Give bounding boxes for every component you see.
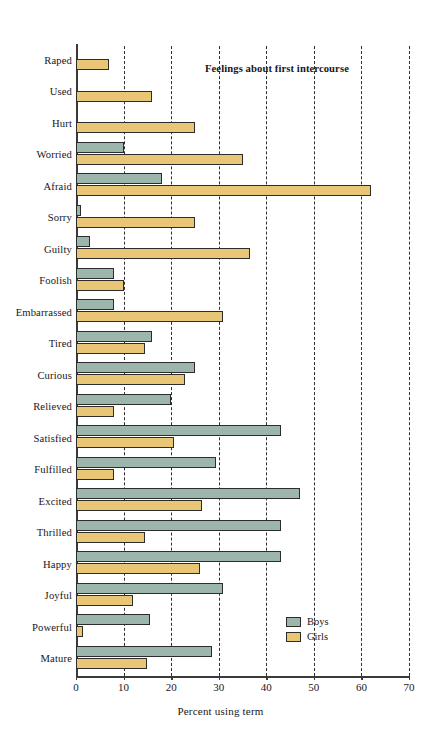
bar-boys-worried — [76, 142, 124, 153]
category-label-excited: Excited — [0, 496, 72, 507]
category-label-sorry: Sorry — [0, 212, 72, 223]
bar-boys-foolish — [76, 268, 114, 279]
x-axis-title: Percent using term — [0, 705, 441, 717]
bar-chart: Feelings about first intercourse Percent… — [0, 0, 441, 753]
x-tick-40 — [266, 676, 267, 680]
bar-girls-foolish — [76, 280, 124, 291]
bar-girls-sorry — [76, 217, 195, 228]
x-tick-70 — [409, 676, 410, 680]
bar-boys-afraid — [76, 173, 162, 184]
x-tick-label-30: 30 — [213, 681, 224, 693]
chart-row: Happy — [0, 550, 441, 577]
bar-boys-mature — [76, 646, 212, 657]
chart-row: Worried — [0, 141, 441, 168]
x-tick-label-60: 60 — [356, 681, 367, 693]
bar-girls-afraid — [76, 185, 371, 196]
category-label-thrilled: Thrilled — [0, 527, 72, 538]
bar-boys-excited — [76, 488, 300, 499]
chart-row: Powerful — [0, 613, 441, 640]
x-tick-label-0: 0 — [73, 681, 79, 693]
chart-row: Hurt — [0, 109, 441, 136]
x-tick-label-40: 40 — [261, 681, 272, 693]
bar-girls-powerful — [76, 626, 83, 637]
bar-boys-fulfilled — [76, 457, 216, 468]
category-label-worried: Worried — [0, 149, 72, 160]
bar-girls-fulfilled — [76, 469, 114, 480]
category-label-guilty: Guilty — [0, 244, 72, 255]
category-label-tired: Tired — [0, 338, 72, 349]
bar-boys-powerful — [76, 614, 150, 625]
bar-boys-curious — [76, 362, 195, 373]
x-tick-0 — [76, 676, 77, 680]
category-label-powerful: Powerful — [0, 622, 72, 633]
bar-girls-used — [76, 91, 152, 102]
category-label-raped: Raped — [0, 55, 72, 66]
chart-row: Satisfied — [0, 424, 441, 451]
bar-girls-joyful — [76, 595, 133, 606]
bar-girls-tired — [76, 343, 145, 354]
x-tick-60 — [361, 676, 362, 680]
chart-row: Raped — [0, 46, 441, 73]
chart-row: Foolish — [0, 267, 441, 294]
bar-boys-satisfied — [76, 425, 281, 436]
bar-girls-happy — [76, 563, 200, 574]
x-tick-30 — [219, 676, 220, 680]
bar-girls-worried — [76, 154, 243, 165]
category-label-fulfilled: Fulfilled — [0, 464, 72, 475]
bar-boys-happy — [76, 551, 281, 562]
bar-girls-guilty — [76, 248, 250, 259]
category-label-foolish: Foolish — [0, 275, 72, 286]
category-label-embarrassed: Embarrassed — [0, 307, 72, 318]
chart-row: Thrilled — [0, 519, 441, 546]
chart-row: Used — [0, 78, 441, 105]
bar-boys-joyful — [76, 583, 223, 594]
category-label-satisfied: Satisfied — [0, 433, 72, 444]
category-label-joyful: Joyful — [0, 590, 72, 601]
category-label-relieved: Relieved — [0, 401, 72, 412]
x-tick-label-10: 10 — [118, 681, 129, 693]
bar-boys-sorry — [76, 205, 81, 216]
x-tick-20 — [171, 676, 172, 680]
category-label-used: Used — [0, 86, 72, 97]
bar-girls-relieved — [76, 406, 114, 417]
bar-girls-mature — [76, 658, 147, 669]
category-label-mature: Mature — [0, 653, 72, 664]
chart-row: Embarrassed — [0, 298, 441, 325]
chart-row: Relieved — [0, 393, 441, 420]
bar-girls-embarrassed — [76, 311, 223, 322]
chart-row: Sorry — [0, 204, 441, 231]
bar-girls-raped — [76, 59, 109, 70]
chart-row: Guilty — [0, 235, 441, 262]
chart-row: Joyful — [0, 582, 441, 609]
chart-row: Fulfilled — [0, 456, 441, 483]
bar-boys-relieved — [76, 394, 171, 405]
bar-girls-thrilled — [76, 532, 145, 543]
chart-row: Tired — [0, 330, 441, 357]
bar-boys-embarrassed — [76, 299, 114, 310]
chart-row: Mature — [0, 645, 441, 672]
category-label-hurt: Hurt — [0, 118, 72, 129]
bar-boys-guilty — [76, 236, 90, 247]
chart-row: Afraid — [0, 172, 441, 199]
x-tick-label-20: 20 — [166, 681, 177, 693]
x-tick-10 — [124, 676, 125, 680]
category-label-happy: Happy — [0, 559, 72, 570]
bar-boys-thrilled — [76, 520, 281, 531]
category-label-afraid: Afraid — [0, 181, 72, 192]
x-tick-label-70: 70 — [404, 681, 415, 693]
bar-girls-satisfied — [76, 437, 174, 448]
x-tick-50 — [314, 676, 315, 680]
bar-girls-hurt — [76, 122, 195, 133]
bar-girls-excited — [76, 500, 202, 511]
bar-boys-tired — [76, 331, 152, 342]
chart-row: Excited — [0, 487, 441, 514]
category-label-curious: Curious — [0, 370, 72, 381]
bar-girls-curious — [76, 374, 185, 385]
x-axis-line — [76, 676, 409, 678]
x-tick-label-50: 50 — [308, 681, 319, 693]
chart-row: Curious — [0, 361, 441, 388]
